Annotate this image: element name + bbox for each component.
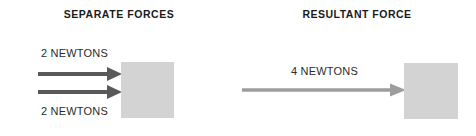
- resultant-force-title: RESULTANT FORCE: [238, 8, 476, 20]
- resultant-force-object-block: [404, 63, 458, 119]
- separate-forces-object-block: [121, 62, 174, 118]
- lower-force-label: 2 NEWTONS: [41, 105, 108, 118]
- upper-force-arrow: [38, 66, 122, 82]
- force-diagram: SEPARATE FORCES 2 NEWTONS 2 NEWTONS RESU…: [0, 0, 476, 136]
- separate-forces-title: SEPARATE FORCES: [0, 8, 238, 20]
- separate-forces-panel: SEPARATE FORCES 2 NEWTONS 2 NEWTONS: [0, 0, 238, 136]
- resultant-force-label: 4 NEWTONS: [291, 65, 358, 78]
- resultant-force-arrow: [242, 82, 406, 98]
- upper-force-label: 2 NEWTONS: [41, 47, 108, 60]
- lower-force-arrow: [38, 84, 122, 100]
